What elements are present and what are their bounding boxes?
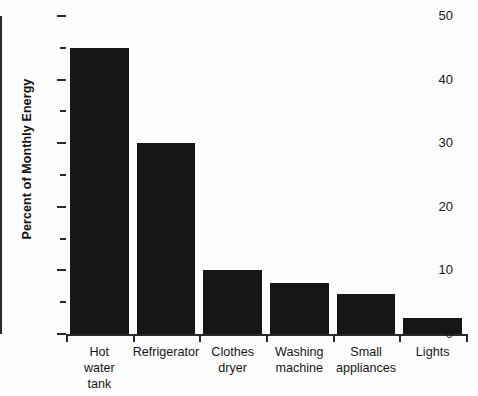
- x-tick: [266, 334, 268, 342]
- x-tick: [466, 334, 468, 342]
- x-axis-label-line: Hot: [66, 344, 133, 360]
- x-tick: [399, 334, 401, 342]
- bar: [403, 318, 462, 334]
- y-tick-label: 10: [413, 263, 453, 276]
- x-axis-label-line: Washing: [266, 344, 333, 360]
- x-axis-label: Refrigerator: [133, 344, 200, 360]
- y-tick-major: [57, 15, 66, 17]
- y-tick-minor: [60, 110, 66, 112]
- y-axis-line: [0, 16, 2, 334]
- y-tick-major: [57, 79, 66, 81]
- bar: [203, 270, 262, 334]
- x-tick: [199, 334, 201, 342]
- x-axis-label-line: Small: [333, 344, 400, 360]
- bar-chart: Percent of Monthly Energy 01020304050 Ho…: [0, 0, 478, 396]
- bar: [137, 143, 196, 334]
- x-axis-label-line: tank: [66, 376, 133, 392]
- y-axis-title: Percent of Monthly Energy: [17, 29, 37, 289]
- y-tick-minor: [60, 47, 66, 49]
- y-tick-major: [57, 206, 66, 208]
- y-tick-label: 50: [413, 9, 453, 22]
- y-tick-major: [57, 269, 66, 271]
- x-axis-label-line: machine: [266, 360, 333, 376]
- bar: [70, 48, 129, 334]
- bar: [337, 294, 396, 334]
- x-tick: [66, 334, 68, 342]
- x-axis-label-line: dryer: [199, 360, 266, 376]
- y-tick-minor: [60, 174, 66, 176]
- x-axis-label-line: Clothes: [199, 344, 266, 360]
- x-axis-label: Hotwatertank: [66, 344, 133, 392]
- bar: [270, 283, 329, 334]
- x-axis-label-line: water: [66, 360, 133, 376]
- x-axis-label-line: Refrigerator: [133, 344, 200, 360]
- x-axis-label: Smallappliances: [333, 344, 400, 376]
- y-tick-major: [57, 142, 66, 144]
- x-tick: [333, 334, 335, 342]
- x-axis-label: Lights: [399, 344, 466, 360]
- x-tick: [133, 334, 135, 342]
- y-tick-major: [57, 333, 66, 335]
- plot-area: 01020304050: [66, 16, 466, 334]
- x-axis-label: Clothesdryer: [199, 344, 266, 376]
- y-tick-minor: [60, 301, 66, 303]
- x-axis-label-line: appliances: [333, 360, 400, 376]
- x-axis-label-line: Lights: [399, 344, 466, 360]
- y-tick-label: 40: [413, 73, 453, 86]
- y-tick-label: 30: [413, 136, 453, 149]
- x-axis-label: Washingmachine: [266, 344, 333, 376]
- y-tick-minor: [60, 238, 66, 240]
- y-tick-label: 20: [413, 200, 453, 213]
